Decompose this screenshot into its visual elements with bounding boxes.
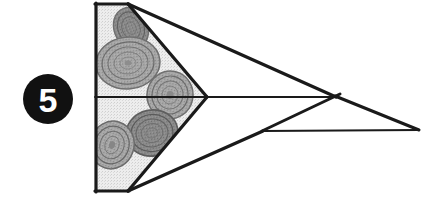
figure-container: 5 — [0, 0, 437, 211]
rising-diagonal-edge — [262, 94, 340, 131]
figure-illustration: 5 — [0, 0, 437, 211]
right-tail-edge — [335, 96, 419, 130]
lower-ledge-line — [262, 130, 419, 131]
badge-number-label: 5 — [39, 81, 58, 119]
figure-number-badge: 5 — [23, 74, 73, 124]
